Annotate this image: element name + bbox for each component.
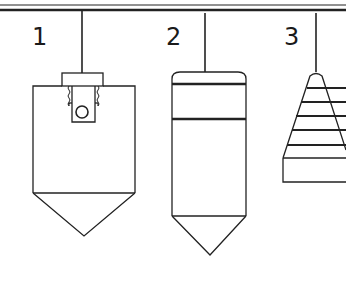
- cap-1: [62, 73, 103, 86]
- base-3: [283, 158, 346, 182]
- plumb-bob-1: [33, 11, 135, 236]
- label-2: 2: [166, 25, 181, 49]
- label-3: 3: [284, 25, 299, 49]
- tip-2: [172, 216, 246, 255]
- plumb-bob-diagram: 1 2 3: [0, 0, 346, 283]
- support-bar: [0, 5, 346, 10]
- ball-icon: [76, 106, 88, 118]
- tip-1: [33, 193, 135, 236]
- cap-2: [172, 72, 246, 84]
- label-1: 1: [32, 25, 47, 49]
- plumb-bob-2: [172, 13, 246, 255]
- threaded-socket-icon: [68, 86, 99, 122]
